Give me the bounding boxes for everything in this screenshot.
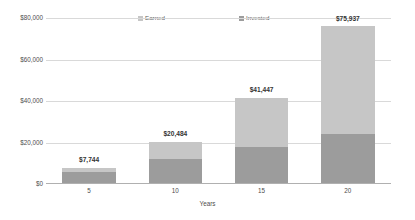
- x-axis-line: [46, 183, 391, 184]
- bar-segment-invested[interactable]: [235, 147, 288, 184]
- y-axis-tick-label: $80,000: [0, 15, 43, 21]
- bar-group[interactable]: $75,937: [321, 18, 374, 184]
- bar-chart: Earned Invested $80,000$60,000$40,000$20…: [0, 0, 415, 220]
- x-axis-tick-label: 10: [172, 188, 179, 194]
- bar-group[interactable]: $20,484: [149, 18, 202, 184]
- plot-area: $7,744$20,484$41,447$75,937: [46, 18, 391, 184]
- x-axis-title: Years: [0, 201, 415, 207]
- bar-segment-earned[interactable]: [235, 98, 288, 147]
- bar-group[interactable]: $41,447: [235, 18, 288, 184]
- y-axis-tick-label: $60,000: [0, 56, 43, 62]
- bar-value-label: $7,744: [79, 157, 99, 164]
- bar-segment-invested[interactable]: [149, 159, 202, 184]
- bar-value-label: $41,447: [250, 87, 274, 94]
- bar-value-label: $20,484: [163, 131, 187, 138]
- y-axis-tick-label: $40,000: [0, 98, 43, 104]
- stacked-bar[interactable]: [62, 168, 115, 184]
- bar-group[interactable]: $7,744: [62, 18, 115, 184]
- stacked-bar[interactable]: [149, 142, 202, 185]
- y-axis-tick-label: $20,000: [0, 139, 43, 145]
- x-axis-tick-label: 20: [344, 188, 351, 194]
- x-axis-tick-label: 15: [258, 188, 265, 194]
- bar-value-label: $75,937: [336, 16, 360, 23]
- bar-segment-earned[interactable]: [149, 142, 202, 160]
- bar-segment-invested[interactable]: [321, 134, 374, 184]
- y-axis-tick-label: $0: [0, 181, 43, 187]
- stacked-bar[interactable]: [235, 98, 288, 184]
- stacked-bar[interactable]: [321, 26, 374, 184]
- bar-segment-earned[interactable]: [321, 26, 374, 134]
- x-axis-tick-label: 5: [87, 188, 91, 194]
